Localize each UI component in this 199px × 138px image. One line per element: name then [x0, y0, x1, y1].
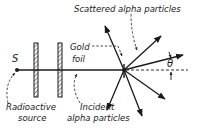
source-leader	[7, 73, 15, 103]
source-label-line1: Radioactive	[6, 102, 56, 112]
gold-foil-label-line2: foil	[72, 54, 86, 64]
source-label-line2: source	[18, 113, 46, 123]
scattered-leader	[131, 14, 137, 50]
scattered-label: Scattered alpha particles	[74, 4, 181, 14]
incident-leader	[74, 74, 80, 103]
rutherford-scattering-diagram: θ S Gold foil Scattered alpha particles …	[0, 0, 199, 138]
source-dot	[15, 68, 19, 72]
gold-foil-label-line1: Gold	[70, 42, 90, 52]
incident-label-line2: alpha particles	[67, 113, 130, 123]
scattered-rays	[105, 26, 183, 116]
scattered-ray-back-up	[105, 26, 124, 70]
theta-label: θ	[167, 58, 173, 69]
incident-label-line1: Incident	[80, 102, 115, 112]
source-symbol-label: S	[12, 53, 19, 64]
